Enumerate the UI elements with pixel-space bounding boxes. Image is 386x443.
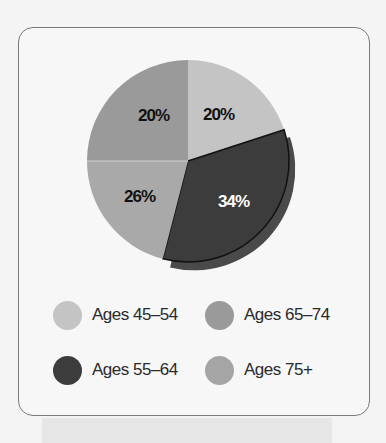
legend-label: Ages 75+	[244, 360, 312, 380]
legend-swatch-icon	[205, 301, 234, 330]
legend-label: Ages 45–54	[92, 305, 178, 325]
legend-item-ages-65-74: Ages 65–74	[205, 300, 330, 330]
legend-swatch-icon	[53, 356, 82, 385]
legend-swatch-icon	[53, 301, 82, 330]
slice-label-ages-45-54: 20%	[203, 105, 235, 124]
legend-swatch-icon	[205, 356, 234, 385]
legend-item-ages-55-64: Ages 55–64	[53, 355, 178, 385]
legend-item-ages-75-plus: Ages 75+	[205, 355, 312, 385]
slice-label-ages-75-plus: 26%	[124, 187, 156, 206]
legend-label: Ages 65–74	[244, 305, 330, 325]
legend-label: Ages 55–64	[92, 360, 178, 380]
slice-label-ages-65-74: 20%	[138, 106, 170, 125]
slice-label-ages-55-64: 34%	[218, 192, 250, 211]
legend-item-ages-45-54: Ages 45–54	[53, 300, 178, 330]
